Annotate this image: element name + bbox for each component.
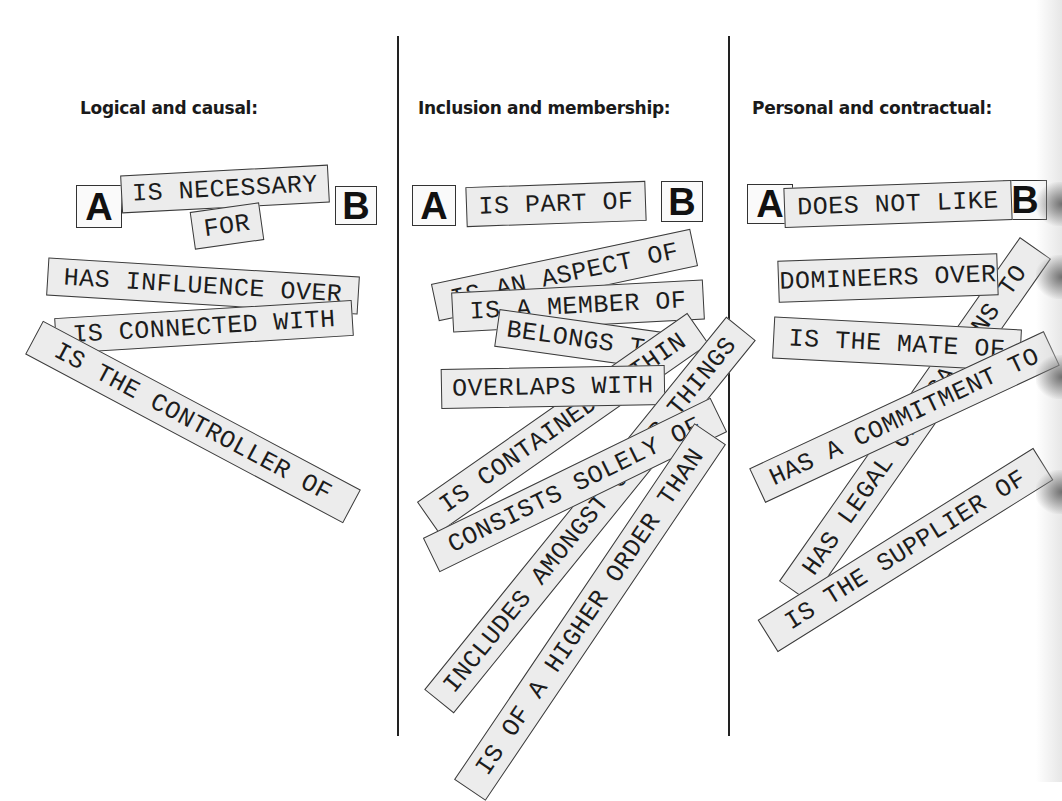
strip-domineers-over[interactable]: DOMINEERS OVER [777, 253, 998, 303]
strip-is-the-controller-of[interactable]: IS THE CONTROLLER OF [25, 321, 361, 524]
page-edge-blot [1036, 355, 1062, 399]
column-divider-1 [397, 36, 399, 736]
page-edge-blot [1036, 470, 1062, 514]
heading-personal-contractual: Personal and contractual: [752, 98, 992, 118]
relation-strip-does-not-like: DOES NOT LIKE [783, 180, 1012, 228]
column-divider-2 [728, 36, 730, 736]
heading-inclusion-membership: Inclusion and membership: [418, 98, 670, 118]
page-edge-blot [1036, 182, 1062, 226]
strip-overlaps-with[interactable]: OVERLAPS WITH [441, 365, 666, 409]
object-box-b: B [661, 181, 703, 222]
relation-strip-is-part-of: IS PART OF [465, 181, 646, 227]
heading-logical-causal: Logical and causal: [80, 98, 258, 118]
object-box-b: B [335, 186, 377, 225]
subject-box-a: A [412, 185, 456, 226]
page-edge-blot [1036, 255, 1062, 299]
subject-box-a: A [76, 185, 122, 228]
relation-strip-for: FOR [190, 202, 265, 249]
strip-is-connected-with[interactable]: IS CONNECTED WITH [54, 300, 354, 354]
